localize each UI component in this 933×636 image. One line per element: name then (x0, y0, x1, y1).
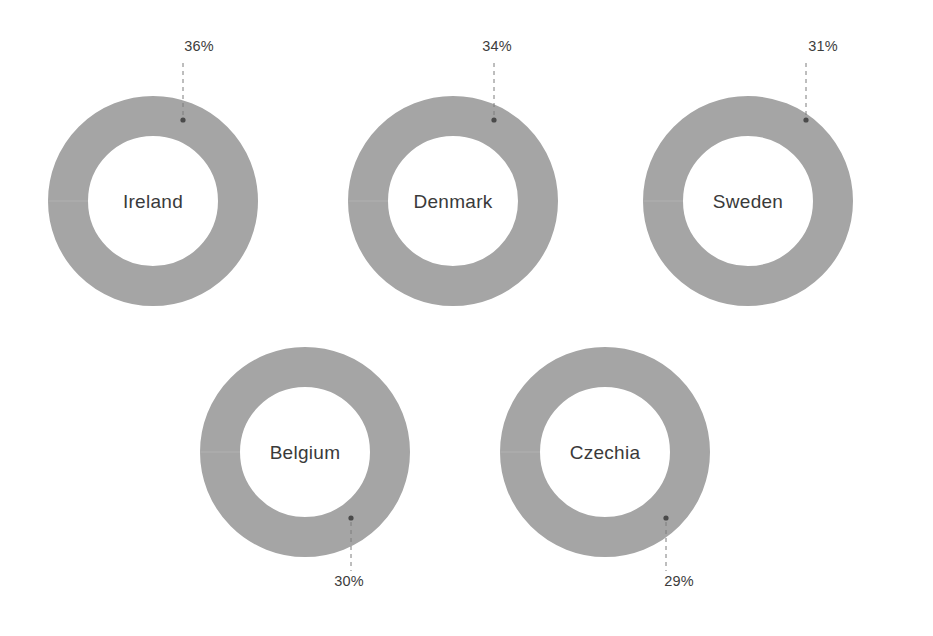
value-label-belgium: 30% (334, 573, 364, 589)
chart-canvas: 36%Ireland34%Denmark31%Sweden30%Belgium2… (0, 0, 933, 636)
category-label-denmark: Denmark (413, 191, 492, 212)
value-marker-dot-ireland (180, 117, 185, 122)
value-label-sweden: 31% (808, 38, 838, 54)
donut-czechia[interactable]: 29%Czechia (500, 367, 694, 589)
value-marker-dot-belgium (348, 515, 353, 520)
donut-sweden[interactable]: 31%Sweden (643, 38, 838, 286)
value-label-ireland: 36% (184, 38, 214, 54)
value-label-denmark: 34% (482, 38, 512, 54)
donut-denmark[interactable]: 34%Denmark (348, 38, 538, 286)
value-marker-dot-denmark (491, 117, 496, 122)
category-label-ireland: Ireland (123, 191, 183, 212)
value-marker-dot-czechia (663, 515, 668, 520)
value-label-czechia: 29% (664, 573, 694, 589)
donut-chart-grid: 36%Ireland34%Denmark31%Sweden30%Belgium2… (0, 0, 933, 636)
donut-ireland[interactable]: 36%Ireland (48, 38, 238, 286)
donut-belgium[interactable]: 30%Belgium (200, 367, 390, 589)
category-label-sweden: Sweden (713, 191, 783, 212)
value-marker-dot-sweden (803, 117, 808, 122)
category-label-czechia: Czechia (570, 442, 641, 463)
category-label-belgium: Belgium (270, 442, 341, 463)
